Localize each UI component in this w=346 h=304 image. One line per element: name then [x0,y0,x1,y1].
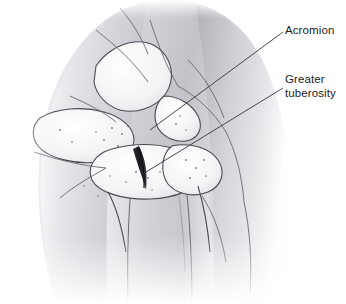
label-greater-tuberosity: Greatertuberosity [285,73,336,100]
anatomy-figure: Acromion Greatertuberosity [0,0,346,304]
shoulder-illustration [0,0,346,304]
label-acromion: Acromion [285,24,334,38]
label-greater-tuberosity-line1: Greater [285,73,325,85]
label-greater-tuberosity-line2: tuberosity [285,87,336,99]
